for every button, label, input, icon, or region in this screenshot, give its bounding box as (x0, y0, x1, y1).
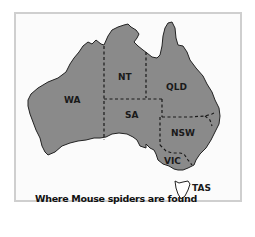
mainland-australia (28, 22, 220, 170)
state-label-sa: SA (125, 110, 138, 120)
state-label-qld: QLD (166, 82, 187, 92)
state-label-nsw: NSW (171, 128, 195, 138)
australia-map: NT QLD WA SA NSW VIC TAS Where Mouse spi… (0, 0, 255, 237)
map-caption: Where Mouse spiders are found (35, 193, 197, 204)
state-label-wa: WA (64, 95, 81, 105)
state-label-nt: NT (118, 72, 133, 82)
state-label-vic: VIC (164, 156, 181, 166)
state-label-tas: TAS (192, 183, 211, 193)
